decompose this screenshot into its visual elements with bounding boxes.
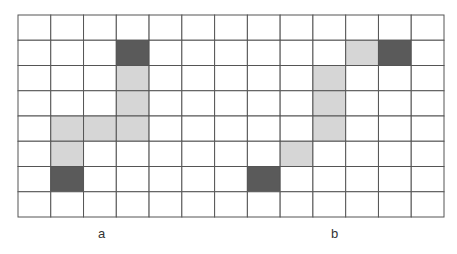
grid-cell <box>280 91 313 116</box>
grid-cell <box>378 192 411 217</box>
grid-cell-dark-b <box>247 167 280 192</box>
grid-cell <box>378 141 411 166</box>
grid-cell <box>182 66 215 91</box>
grid-cell-light-a <box>84 116 117 141</box>
grid-cell-light-a <box>116 116 149 141</box>
grid-cell <box>182 167 215 192</box>
grid-cell <box>247 192 280 217</box>
panel-label-a: a <box>98 226 105 241</box>
grid-cell <box>378 66 411 91</box>
grid-cell <box>280 15 313 40</box>
grid-cell <box>378 91 411 116</box>
grid-cell <box>247 66 280 91</box>
grid-cell <box>18 192 51 217</box>
grid-cell <box>411 15 444 40</box>
panel-label-b: b <box>331 226 338 241</box>
grid-cell <box>51 192 84 217</box>
grid-cell <box>346 167 379 192</box>
grid-cell <box>18 66 51 91</box>
grid-cell <box>346 192 379 217</box>
grid-cell-light-a <box>51 141 84 166</box>
grid-cell-light-b <box>313 116 346 141</box>
grid-cell <box>215 66 248 91</box>
grid-cell <box>313 15 346 40</box>
cell-grid <box>17 14 445 219</box>
grid-cell <box>84 167 117 192</box>
grid-cell <box>182 91 215 116</box>
grid-cell <box>247 40 280 65</box>
grid-cell <box>182 40 215 65</box>
grid-cell <box>18 15 51 40</box>
grid-cell <box>149 192 182 217</box>
grid-cell <box>411 66 444 91</box>
grid-cell <box>411 167 444 192</box>
grid-cell <box>182 116 215 141</box>
grid-cell <box>18 116 51 141</box>
grid-cell <box>149 15 182 40</box>
grid-cell <box>247 91 280 116</box>
grid-cell <box>149 66 182 91</box>
grid-cell-light-b <box>313 91 346 116</box>
grid-cell <box>280 192 313 217</box>
grid-cell <box>182 141 215 166</box>
grid-cell <box>411 40 444 65</box>
grid-cell <box>18 141 51 166</box>
grid-cell <box>84 66 117 91</box>
grid-cell <box>18 167 51 192</box>
grid-cell-light-a <box>51 116 84 141</box>
grid-cell <box>346 91 379 116</box>
grid-cell <box>149 91 182 116</box>
grid-cell <box>280 40 313 65</box>
grid-cell-dark-b <box>378 40 411 65</box>
grid-cell <box>215 192 248 217</box>
grid-cell <box>149 141 182 166</box>
grid-cell-light-b <box>346 40 379 65</box>
grid-cell <box>215 15 248 40</box>
grid-cell <box>313 141 346 166</box>
grid-cell <box>280 116 313 141</box>
grid-cell <box>182 15 215 40</box>
grid-cell <box>280 167 313 192</box>
grid-cell-dark-a <box>51 167 84 192</box>
grid-cell <box>378 116 411 141</box>
grid-cell <box>346 66 379 91</box>
grid-cell <box>247 15 280 40</box>
grid-cell <box>18 91 51 116</box>
grid-cell-light-b <box>313 66 346 91</box>
grid-cell <box>84 40 117 65</box>
grid-cell <box>215 167 248 192</box>
grid-cell <box>116 167 149 192</box>
grid-cell <box>378 167 411 192</box>
grid-cell <box>215 40 248 65</box>
grid-cell <box>84 141 117 166</box>
grid-cell <box>411 192 444 217</box>
grid-cell <box>182 192 215 217</box>
grid-cell <box>215 141 248 166</box>
grid-cell <box>51 91 84 116</box>
grid-cell <box>84 192 117 217</box>
grid-cell <box>51 66 84 91</box>
grid-cell <box>313 167 346 192</box>
grid-cell <box>313 192 346 217</box>
grid-cell <box>411 141 444 166</box>
grid-cell <box>215 91 248 116</box>
grid-cell <box>411 116 444 141</box>
grid-cell <box>346 15 379 40</box>
grid-cell-light-b <box>280 141 313 166</box>
grid-cell <box>18 40 51 65</box>
grid-cell <box>116 192 149 217</box>
grid-cell-light-a <box>116 91 149 116</box>
grid-cell <box>247 116 280 141</box>
grid-cell <box>346 141 379 166</box>
grid-cell <box>149 40 182 65</box>
grid-cell <box>378 15 411 40</box>
grid-cell <box>51 15 84 40</box>
grid-cell <box>247 141 280 166</box>
grid-cell <box>116 141 149 166</box>
grid-cell <box>411 91 444 116</box>
grid-cell <box>215 116 248 141</box>
grid-cell <box>149 167 182 192</box>
grid-cell-dark-a <box>116 40 149 65</box>
grid-cell <box>149 116 182 141</box>
grid-cell <box>84 15 117 40</box>
